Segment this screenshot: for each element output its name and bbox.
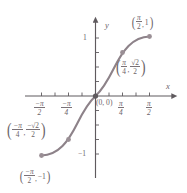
- point-marker-pi-over-4: [120, 50, 125, 55]
- origin-point-label: (0, 0): [96, 99, 112, 107]
- label-neg-pi-over-4-y-denominator: 2: [26, 130, 40, 138]
- x-tick-pi-over-4-denominator: 4: [118, 108, 124, 116]
- x-tick-neg-pi-over-2-denominator: 2: [34, 108, 45, 116]
- label-point-pi-over-4: ( π 4 , √2 2 ): [115, 59, 146, 76]
- x-tick-pi-over-4-numerator: π: [118, 100, 124, 109]
- y-tick-label-neg1: −1: [78, 150, 86, 158]
- point-marker-neg-pi-over-2: [39, 153, 44, 158]
- plot-canvas: [0, 0, 187, 193]
- x-tick-label-neg-pi-over-2: −π 2: [34, 99, 45, 117]
- label-pi-over-2-y: 1: [145, 19, 149, 27]
- x-tick-neg-pi-over-4-numerator: −π: [61, 100, 72, 109]
- comma: ,: [35, 175, 38, 183]
- x-tick-neg-pi-over-2-numerator: −π: [34, 100, 45, 109]
- x-tick-pi-over-2-numerator: π: [146, 100, 152, 109]
- label-neg-pi-over-2-denominator: 2: [24, 176, 35, 184]
- y-axis-label: y: [105, 21, 109, 30]
- sine-curve-figure: y x 1 −1 −π 2 −π 4 π 4 π 2 (0, 0) (: [0, 0, 187, 193]
- label-neg-pi-over-4-denominator: 4: [12, 130, 23, 138]
- x-tick-label-pi-over-4: π 4: [118, 99, 124, 117]
- label-neg-pi-over-2-y: −1: [38, 173, 46, 181]
- label-neg-pi-over-4-y-numerator: −√2: [26, 122, 40, 131]
- x-tick-pi-over-2-denominator: 2: [146, 108, 152, 116]
- label-point-neg-pi-over-4: ( −π 4 , −√2 2 ): [6, 122, 46, 139]
- y-tick-label-1: 1: [83, 34, 87, 42]
- point-marker-neg-pi-over-4: [66, 137, 71, 142]
- label-neg-pi-over-4-numerator: −π: [12, 122, 23, 131]
- label-point-neg-pi-over-2: ( −π 2 , −1 ): [19, 168, 51, 185]
- label-pi-over-4-y-numerator: √2: [130, 59, 140, 68]
- label-point-pi-over-2: ( π 2 , 1 ): [131, 14, 154, 31]
- x-tick-label-neg-pi-over-4: −π 4: [61, 99, 72, 117]
- x-tick-neg-pi-over-4-denominator: 4: [61, 108, 72, 116]
- comma: ,: [142, 21, 145, 29]
- label-pi-over-4-y-denominator: 2: [130, 67, 140, 75]
- label-neg-pi-over-2-numerator: −π: [24, 168, 35, 177]
- x-tick-label-pi-over-2: π 2: [146, 99, 152, 117]
- point-marker-pi-over-2: [147, 34, 152, 39]
- x-axis-label: x: [166, 82, 170, 91]
